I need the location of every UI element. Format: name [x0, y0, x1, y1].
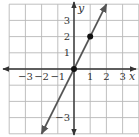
x-tick-label: 2: [103, 71, 109, 82]
x-axis-label: x: [129, 70, 136, 83]
y-axis-label: y: [77, 2, 85, 15]
x-tick-label: −3: [18, 71, 33, 82]
data-point: [71, 66, 77, 72]
y-tick-label: 1: [64, 47, 70, 58]
data-point: [87, 34, 93, 40]
y-tick-label: 2: [64, 31, 70, 42]
x-tick-label: 1: [87, 71, 93, 82]
y-tick-label: −3: [55, 112, 70, 123]
coordinate-graph: −3−2−1123321−3 x y: [0, 0, 139, 137]
x-tick-label: −2: [34, 71, 49, 82]
y-tick-label: 3: [64, 15, 70, 26]
x-tick-label: −1: [50, 71, 65, 82]
x-tick-label: 3: [119, 71, 125, 82]
